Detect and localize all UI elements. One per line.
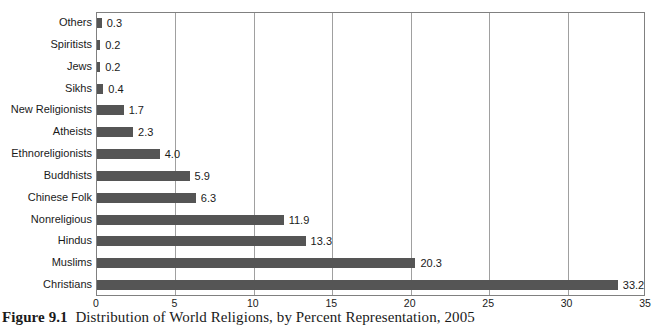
category-label: Atheists: [0, 121, 92, 143]
category-label: Jews: [0, 56, 92, 78]
bar-row: 0.2: [97, 57, 644, 79]
bar: [97, 127, 133, 137]
bar: [97, 105, 124, 115]
bar-value-label: 11.9: [289, 211, 310, 229]
bar-value-label: 0.4: [108, 80, 123, 98]
bar: [97, 236, 306, 246]
bar: [97, 171, 190, 181]
category-label: Ethnoreligionists: [0, 143, 92, 165]
bar-row: 33.2: [97, 275, 644, 297]
bar-row: 5.9: [97, 166, 644, 188]
bar-row: 6.3: [97, 188, 644, 210]
x-tick-label: 20: [404, 297, 416, 309]
bar-row: 2.3: [97, 122, 644, 144]
category-label: Muslims: [0, 252, 92, 274]
bar-row: 13.3: [97, 231, 644, 253]
bar-value-label: 0.2: [105, 58, 120, 76]
bar-row: 0.2: [97, 35, 644, 57]
x-tick-label: 25: [482, 297, 494, 309]
bar-row: 0.4: [97, 79, 644, 101]
bar: [97, 62, 100, 72]
bar-value-label: 5.9: [195, 167, 210, 185]
x-tick-label: 0: [93, 297, 99, 309]
x-tick-label: 15: [325, 297, 337, 309]
bar-value-label: 0.3: [107, 14, 122, 32]
plot-area: 0.30.20.20.41.72.34.05.96.311.913.320.33…: [96, 12, 645, 296]
bar-value-label: 6.3: [201, 189, 216, 207]
bar-row: 11.9: [97, 210, 644, 232]
bar: [97, 215, 284, 225]
bar-row: 4.0: [97, 144, 644, 166]
bar-row: 20.3: [97, 253, 644, 275]
bar-value-label: 2.3: [138, 123, 153, 141]
category-label: Spiritists: [0, 34, 92, 56]
bar-value-label: 20.3: [420, 254, 441, 272]
bar: [97, 193, 196, 203]
category-label: Sikhs: [0, 78, 92, 100]
category-label: Nonreligious: [0, 209, 92, 231]
bar: [97, 84, 103, 94]
caption-figure-number: Figure 9.1: [2, 309, 68, 325]
bar: [97, 18, 102, 28]
bar: [97, 149, 160, 159]
category-label: Hindus: [0, 230, 92, 252]
bar-value-label: 13.3: [311, 232, 332, 250]
x-tick-label: 10: [247, 297, 259, 309]
category-axis-labels: OthersSpiritistsJewsSikhsNew Religionist…: [0, 12, 92, 296]
category-label: Others: [0, 12, 92, 34]
bar-row: 0.3: [97, 13, 644, 35]
bar: [97, 40, 100, 50]
bar: [97, 280, 618, 290]
figure-container: OthersSpiritistsJewsSikhsNew Religionist…: [0, 0, 659, 329]
category-label: Chinese Folk: [0, 187, 92, 209]
bar-value-label: 4.0: [165, 145, 180, 163]
figure-caption: Figure 9.1 Distribution of World Religio…: [2, 309, 657, 326]
caption-title-text: Distribution of World Religions, by Perc…: [75, 309, 474, 325]
category-label: Buddhists: [0, 165, 92, 187]
bar-row: 1.7: [97, 100, 644, 122]
x-tick-label: 35: [639, 297, 651, 309]
bar: [97, 258, 415, 268]
x-tick-label: 5: [172, 297, 178, 309]
bar-value-label: 33.2: [623, 276, 644, 294]
bar-value-label: 0.2: [105, 36, 120, 54]
category-label: Christians: [0, 274, 92, 296]
category-label: New Religionists: [0, 99, 92, 121]
x-tick-label: 30: [561, 297, 573, 309]
bar-value-label: 1.7: [129, 101, 144, 119]
